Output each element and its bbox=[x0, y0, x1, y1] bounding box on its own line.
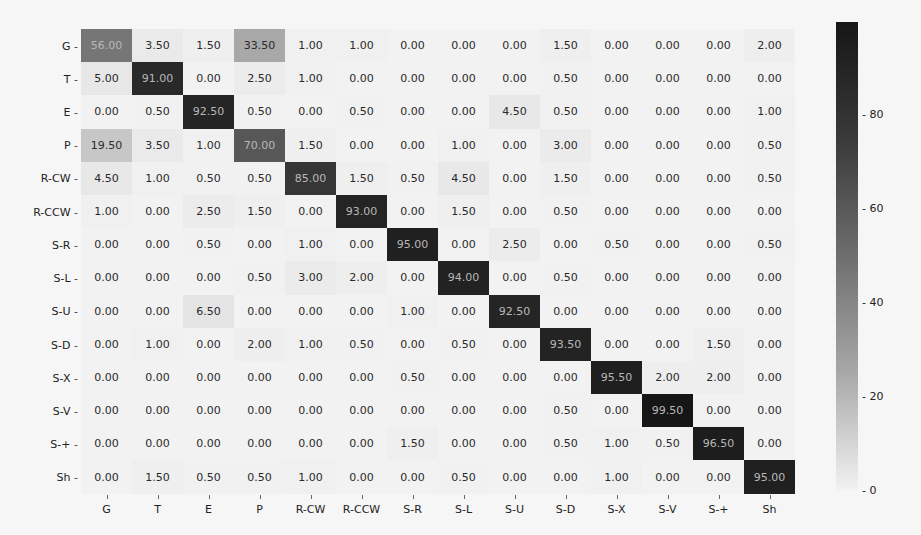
heatmap-cell: 0.00 bbox=[81, 394, 132, 427]
heatmap-cell: 2.00 bbox=[234, 328, 285, 361]
y-tick-label: R-CCW bbox=[33, 205, 78, 218]
heatmap-cell: 0.00 bbox=[183, 394, 234, 427]
heatmap-cell: 0.00 bbox=[642, 261, 693, 294]
colorbar-tick-label: - 40 bbox=[862, 295, 883, 308]
x-tick-label: S-+ bbox=[708, 503, 728, 516]
heatmap-cell: 0.00 bbox=[438, 427, 489, 460]
heatmap-cell: 85.00 bbox=[285, 162, 336, 195]
heatmap-cell: 1.00 bbox=[285, 328, 336, 361]
heatmap-cell: 2.50 bbox=[183, 195, 234, 228]
y-tick-label: S-R bbox=[52, 238, 78, 251]
heatmap-cell: 0.50 bbox=[540, 261, 591, 294]
x-tick-mark bbox=[515, 495, 516, 499]
y-tick-label: T bbox=[64, 72, 78, 85]
heatmap-cell: 1.50 bbox=[540, 29, 591, 62]
heatmap-cell: 0.00 bbox=[234, 427, 285, 460]
heatmap-cell: 1.00 bbox=[591, 460, 642, 493]
heatmap-cell: 0.50 bbox=[744, 162, 795, 195]
heatmap-cell: 0.00 bbox=[591, 195, 642, 228]
heatmap-cell: 0.00 bbox=[285, 95, 336, 128]
y-tick-label: Sh bbox=[57, 471, 78, 484]
heatmap-cell: 0.00 bbox=[336, 129, 387, 162]
x-tick-label: R-CW bbox=[296, 503, 326, 516]
heatmap-cell: 0.00 bbox=[642, 328, 693, 361]
y-tick-label: P bbox=[64, 139, 78, 152]
heatmap-cell: 0.00 bbox=[132, 261, 183, 294]
heatmap-cell: 95.50 bbox=[591, 361, 642, 394]
heatmap-cell: 1.00 bbox=[81, 195, 132, 228]
y-tick-label: S-V bbox=[53, 404, 78, 417]
heatmap-cell: 0.00 bbox=[132, 228, 183, 261]
heatmap-cell: 0.00 bbox=[744, 328, 795, 361]
heatmap-cell: 91.00 bbox=[132, 62, 183, 95]
x-tick-mark bbox=[209, 495, 210, 499]
heatmap-cell: 70.00 bbox=[234, 129, 285, 162]
heatmap-cell: 0.00 bbox=[540, 228, 591, 261]
heatmap-cell: 0.00 bbox=[642, 228, 693, 261]
heatmap-cell: 0.50 bbox=[540, 427, 591, 460]
heatmap-cell: 1.50 bbox=[336, 162, 387, 195]
heatmap-cell: 2.00 bbox=[642, 361, 693, 394]
heatmap-cell: 0.00 bbox=[693, 394, 744, 427]
heatmap-cell: 0.00 bbox=[387, 62, 438, 95]
heatmap-cell: 0.00 bbox=[489, 162, 540, 195]
heatmap-cell: 0.00 bbox=[489, 361, 540, 394]
heatmap-cell: 0.00 bbox=[693, 460, 744, 493]
heatmap-cell: 0.00 bbox=[591, 295, 642, 328]
heatmap-cell: 0.50 bbox=[132, 95, 183, 128]
heatmap-cell: 0.00 bbox=[336, 228, 387, 261]
heatmap-cell: 0.00 bbox=[591, 29, 642, 62]
heatmap-cell: 0.50 bbox=[234, 95, 285, 128]
heatmap-cell: 0.00 bbox=[234, 228, 285, 261]
heatmap-cell: 0.00 bbox=[642, 29, 693, 62]
x-tick-mark bbox=[362, 495, 363, 499]
x-tick-label: S-L bbox=[455, 503, 472, 516]
heatmap-cell: 0.00 bbox=[744, 195, 795, 228]
heatmap-cell: 0.00 bbox=[387, 328, 438, 361]
heatmap-cell: 33.50 bbox=[234, 29, 285, 62]
heatmap-cell: 0.00 bbox=[642, 295, 693, 328]
heatmap-cell: 0.50 bbox=[234, 460, 285, 493]
heatmap-cell: 0.00 bbox=[387, 95, 438, 128]
y-tick-label: R-CW bbox=[41, 172, 78, 185]
heatmap-cell: 0.00 bbox=[693, 129, 744, 162]
heatmap-cell: 99.50 bbox=[642, 394, 693, 427]
heatmap-cell: 1.00 bbox=[132, 328, 183, 361]
heatmap-cell: 94.00 bbox=[438, 261, 489, 294]
heatmap-cell: 3.00 bbox=[540, 129, 591, 162]
x-tick-label: Sh bbox=[763, 503, 777, 516]
heatmap-cell: 0.00 bbox=[132, 427, 183, 460]
x-tick-label: E bbox=[205, 503, 212, 516]
heatmap-cell: 0.00 bbox=[489, 261, 540, 294]
heatmap-cell: 0.00 bbox=[387, 195, 438, 228]
heatmap-cell: 0.00 bbox=[336, 394, 387, 427]
heatmap-cell: 0.00 bbox=[387, 394, 438, 427]
heatmap-cell: 4.50 bbox=[438, 162, 489, 195]
heatmap-cell: 0.00 bbox=[693, 29, 744, 62]
heatmap-cell: 0.00 bbox=[183, 261, 234, 294]
heatmap-cell: 0.50 bbox=[183, 162, 234, 195]
x-tick-mark bbox=[566, 495, 567, 499]
heatmap-cell: 1.00 bbox=[285, 228, 336, 261]
heatmap-cell: 0.00 bbox=[438, 228, 489, 261]
heatmap-cell: 0.00 bbox=[132, 195, 183, 228]
heatmap-cell: 0.00 bbox=[81, 460, 132, 493]
heatmap-cell: 0.50 bbox=[234, 261, 285, 294]
heatmap-cell: 0.00 bbox=[81, 95, 132, 128]
heatmap-cell: 0.00 bbox=[744, 427, 795, 460]
heatmap-cell: 0.50 bbox=[642, 427, 693, 460]
heatmap-cell: 0.00 bbox=[438, 62, 489, 95]
heatmap-cell: 0.00 bbox=[642, 460, 693, 493]
x-tick-label: S-D bbox=[556, 503, 575, 516]
heatmap-cell: 0.00 bbox=[693, 195, 744, 228]
heatmap-cell: 0.50 bbox=[234, 162, 285, 195]
heatmap-cell: 0.00 bbox=[438, 295, 489, 328]
heatmap-cell: 0.50 bbox=[744, 228, 795, 261]
heatmap-cell: 0.00 bbox=[744, 261, 795, 294]
heatmap-cell: 1.00 bbox=[183, 129, 234, 162]
x-tick-mark bbox=[311, 495, 312, 499]
heatmap-cell: 0.00 bbox=[387, 261, 438, 294]
heatmap-cell: 0.50 bbox=[540, 95, 591, 128]
heatmap-cell: 0.00 bbox=[693, 95, 744, 128]
heatmap-cell: 1.50 bbox=[693, 328, 744, 361]
